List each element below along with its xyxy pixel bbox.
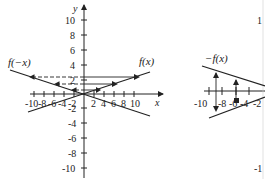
x-tick-label: -10	[194, 98, 207, 109]
y-tick-label: -6	[68, 133, 76, 144]
x-axis-label: x	[154, 97, 160, 108]
y-tick-label: 4	[70, 60, 75, 71]
neg-f-of-x-label: −f(x)	[205, 52, 228, 65]
y-axis-label: y	[72, 3, 78, 14]
neg-f-of-x-line	[202, 66, 265, 86]
x-tick-label: 10	[130, 98, 140, 109]
reflection-arrows	[30, 77, 134, 90]
reflection-diagrams: -10 -8 -6 -4 -2 2 4 6 8 10 x y 10 8 6 4 …	[0, 0, 265, 179]
f-of-neg-x-label: f(−x)	[8, 56, 31, 69]
y-tick-label: -8	[68, 148, 76, 159]
y-tick-label: -10	[62, 163, 75, 174]
f-of-x-label: f(x)	[139, 55, 155, 68]
right-graph: -10 -8 -6 -4 -2 1 -1 −f(x)	[194, 0, 265, 179]
y-tick-label: -2	[68, 103, 76, 114]
y-tick-label: 10	[65, 15, 75, 26]
left-graph: -10 -8 -6 -4 -2 2 4 6 8 10 x y 10 8 6 4 …	[8, 3, 163, 178]
x-tick-label: -8	[218, 98, 226, 109]
y-tick-label: 1	[257, 15, 262, 26]
y-tick-label: -4	[68, 118, 76, 129]
y-tick-label: -1	[254, 163, 262, 174]
y-tick-label: 6	[70, 45, 75, 56]
y-tick-label: 8	[70, 30, 75, 41]
x-tick-label: -10	[25, 98, 38, 109]
x-tick-label: 2	[91, 98, 96, 109]
